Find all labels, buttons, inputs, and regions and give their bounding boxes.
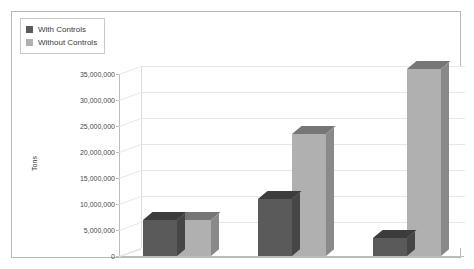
- y-tick-mark: [116, 100, 119, 101]
- y-tick-label: 0: [111, 253, 115, 260]
- legend-swatch-with-controls: [26, 26, 33, 33]
- y-tick-label: 35,000,000: [80, 71, 115, 78]
- y-axis-title: Tons: [31, 156, 38, 171]
- y-tick-label: 10,000,000: [80, 201, 115, 208]
- bar-side-face: [441, 62, 449, 256]
- y-tick-mark: [116, 230, 119, 231]
- y-tick-mark: [116, 204, 119, 205]
- legend-item-without-controls: Without Controls: [26, 36, 97, 49]
- bar-side-face: [177, 213, 185, 256]
- bar-with-controls-0: [143, 220, 177, 256]
- legend-label-with-controls: With Controls: [38, 26, 86, 34]
- y-tick-mark: [116, 152, 119, 153]
- y-tick-mark: [116, 74, 119, 75]
- gridline-depth: [119, 66, 141, 75]
- bar-with-controls-2: [373, 238, 407, 256]
- bar-front-face: [373, 238, 407, 256]
- gridline-depth: [119, 170, 141, 179]
- chart-frame: Tons 05,000,00010,000,00015,000,00020,00…: [11, 11, 461, 258]
- gridline-depth: [119, 222, 141, 231]
- bar-without-controls-2: [407, 69, 441, 256]
- legend-item-with-controls: With Controls: [26, 23, 97, 36]
- gridline-depth: [119, 196, 141, 205]
- y-tick-mark: [116, 256, 119, 257]
- y-tick-label: 30,000,000: [80, 97, 115, 104]
- gridline-depth: [119, 92, 141, 101]
- gridline-depth: [119, 144, 141, 153]
- y-tick-label: 5,000,000: [84, 227, 115, 234]
- bar-with-controls-1: [258, 199, 292, 256]
- bar-side-face: [211, 213, 219, 256]
- bar-front-face: [143, 220, 177, 256]
- chart-container: Tons 05,000,00010,000,00015,000,00020,00…: [0, 0, 474, 269]
- y-tick-mark: [116, 126, 119, 127]
- gridline-depth: [119, 118, 141, 127]
- bar-side-face: [292, 192, 300, 256]
- plot-area: 05,000,00010,000,00015,000,00020,000,000…: [119, 74, 464, 256]
- y-tick-mark: [116, 178, 119, 179]
- legend-swatch-without-controls: [26, 39, 33, 46]
- legend-label-without-controls: Without Controls: [38, 39, 97, 47]
- y-tick-label: 15,000,000: [80, 175, 115, 182]
- bar-side-face: [326, 127, 334, 256]
- y-tick-label: 25,000,000: [80, 123, 115, 130]
- chart-legend: With Controls Without Controls: [20, 18, 105, 54]
- bar-front-face: [258, 199, 292, 256]
- gridline-depth: [119, 248, 141, 257]
- bar-front-face: [407, 69, 441, 256]
- y-tick-label: 20,000,000: [80, 149, 115, 156]
